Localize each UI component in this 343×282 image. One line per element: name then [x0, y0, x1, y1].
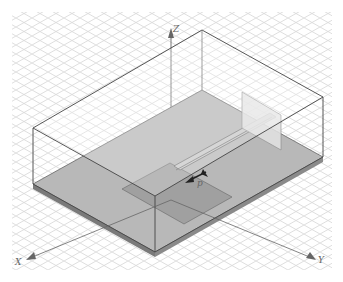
z-axis-label: Z [172, 24, 180, 34]
y-axis-label: Y [318, 255, 325, 265]
port-label: p [197, 178, 203, 188]
x-axis-label: X [14, 257, 22, 267]
model-viewport[interactable]: Z p X [0, 0, 343, 282]
